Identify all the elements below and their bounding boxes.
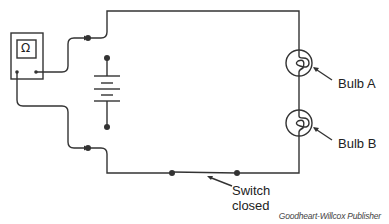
bulb-b-filament: [296, 110, 309, 136]
publisher-credit: Goodheart-Willcox Publisher: [279, 211, 381, 221]
meter-terminal: [15, 70, 19, 74]
bulb-a-label: Bulb A: [338, 76, 376, 91]
meter-lead-bottom: [17, 72, 84, 148]
battery-terminal-dot: [104, 124, 110, 130]
bottom-wire: [237, 136, 299, 173]
switch-blade: [172, 172, 237, 173]
bulb-a-filament: [296, 50, 309, 76]
bottom-left-wire: [88, 148, 172, 173]
battery-terminal-dot: [104, 55, 110, 61]
switch-pointer: [209, 177, 232, 186]
switch-label-line2: closed: [232, 198, 270, 213]
circuit-diagram: [0, 0, 389, 224]
bulb-b-label: Bulb B: [338, 136, 376, 151]
top-wire: [88, 11, 299, 50]
switch-terminal-dot: [234, 170, 240, 176]
ohm-symbol: Ω: [21, 41, 30, 55]
switch-terminal-dot: [169, 170, 175, 176]
switch-label-line1: Switch: [232, 183, 270, 198]
meter-terminal: [34, 70, 38, 74]
